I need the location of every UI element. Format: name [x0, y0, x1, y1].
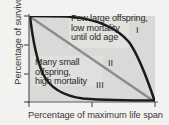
- curve-label-III: III: [96, 80, 104, 90]
- curve-label-II: II: [108, 58, 113, 68]
- type-III-annotation-line-3: high mortality: [35, 77, 87, 87]
- type-III-annotation: Many small offspring, high mortality: [35, 58, 87, 87]
- survivorship-curve-figure: Percentage of survivors Percentage of ma…: [0, 0, 169, 125]
- curve-label-I: I: [136, 25, 139, 35]
